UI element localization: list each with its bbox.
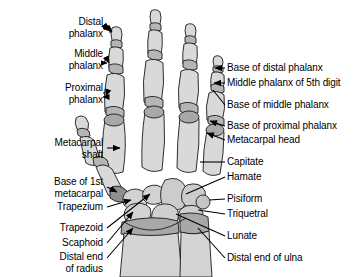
label-lunate: Lunate [227, 230, 257, 242]
label-trapezoid: Trapezoid [60, 222, 103, 234]
label-distal-phalanx-line-1: phalanx [69, 27, 103, 39]
label-distal-end-of-radius-line-0: Distal end [60, 251, 103, 263]
leader-to-pisiform [209, 199, 225, 200]
bone-radius-shaft [120, 233, 182, 277]
label-hamate: Hamate [227, 171, 261, 183]
label-metacarpal-shaft-line-0: Metacarpal [55, 137, 103, 149]
label-triquetral: Triquetral [227, 208, 268, 220]
bone-metacarpal-3-head [144, 106, 164, 118]
label-middle-phalanx-line-0: Middle [69, 48, 103, 60]
bone-middle-middle-base [148, 50, 162, 60]
label-base-of-1st-metacarpal-line-0: Base of 1st [54, 176, 103, 188]
bone-distal-end-of-ulna [180, 213, 209, 234]
label-base-of-1st-metacarpal-line-1: metacarpal [54, 187, 103, 199]
label-scaphoid: Scaphoid [62, 237, 103, 249]
label-proximal-phalanx-line-1: phalanx [65, 93, 103, 105]
label-proximal-phalanx: Proximal phalanx [65, 82, 103, 105]
label-capitate: Capitate [227, 156, 263, 168]
label-middle-phalanx: Middle phalanx [69, 48, 103, 71]
bone-metacarpal-4-shaft [177, 115, 199, 172]
bone-metacarpal-3-shaft [142, 110, 165, 171]
label-trapezium-line-0: Trapezium [57, 201, 103, 213]
hand-skeleton-diagram: Distal phalanx Middle phalanx Proximal p… [0, 0, 362, 277]
label-middle-phalanx-of-5th-digit: Middle phalanx of 5th digit [227, 77, 341, 89]
leader-middle-phalanx-stub [104, 59, 105, 62]
label-distal-end-of-radius-line-1: of radius [60, 262, 103, 274]
bone-ring-middle-base [183, 60, 197, 70]
label-scaphoid-line-0: Scaphoid [62, 237, 103, 249]
label-base-of-distal-phalanx: Base of distal phalanx [227, 62, 323, 74]
label-base-of-proximal-phalanx: Base of proximal phalanx [227, 120, 337, 132]
leader-lines-left-main [105, 27, 107, 59]
label-distal-end-of-ulna: Distal end of ulna [227, 252, 302, 264]
label-distal-phalanx-line-0: Distal [69, 16, 103, 28]
label-distal-phalanx: Distal phalanx [69, 16, 103, 39]
label-metacarpal-head: Metacarpal head [227, 134, 300, 146]
bone-metacarpal-2-head [104, 114, 124, 126]
label-trapezium: Trapezium [57, 201, 103, 213]
label-middle-phalanx-line-1: phalanx [69, 59, 103, 71]
label-distal-end-of-radius: Distal end of radius [60, 251, 103, 274]
label-proximal-phalanx-line-0: Proximal [65, 82, 103, 94]
label-base-of-middle-phalanx: Base of middle phalanx [227, 99, 329, 111]
label-metacarpal-shaft: Metacarpal shaft [55, 137, 103, 160]
label-base-of-1st-metacarpal: Base of 1st metacarpal [54, 176, 103, 199]
label-pisiform: Pisiform [227, 193, 262, 205]
label-metacarpal-shaft-line-1: shaft [55, 148, 103, 160]
label-trapezoid-line-0: Trapezoid [60, 222, 103, 234]
bone-index-middle-base [109, 64, 123, 74]
bone-metacarpal-4-head [179, 111, 199, 123]
